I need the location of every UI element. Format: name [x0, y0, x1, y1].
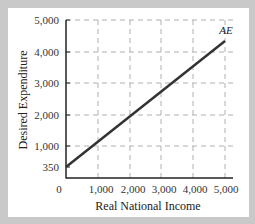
y-tick-350: 350 [43, 161, 60, 173]
y-tick-1000: 1,000 [34, 140, 59, 152]
y-tick-2000: 2,000 [34, 109, 59, 121]
chart-svg: 5,000 4,000 3,000 2,000 1,000 350 0 1,00… [0, 0, 255, 224]
x-axis-label: Real National Income [95, 199, 200, 213]
x-tick-3000: 3,000 [152, 183, 177, 195]
x-tick-2000: 2,000 [121, 183, 146, 195]
x-tick-4000: 4,000 [183, 183, 208, 195]
y-tick-3000: 3,000 [34, 77, 59, 89]
ae-line [66, 41, 225, 167]
x-tick-1000: 1,000 [89, 183, 114, 195]
grid-lines [66, 20, 233, 178]
y-axis-label: Desired Expenditure [16, 51, 30, 150]
ae-series-label: AE [218, 24, 233, 36]
x-tick-0: 0 [56, 183, 62, 195]
x-tick-5000: 5,000 [214, 183, 239, 195]
y-tick-4000: 4,000 [34, 46, 59, 58]
y-tick-5000: 5,000 [34, 14, 59, 26]
